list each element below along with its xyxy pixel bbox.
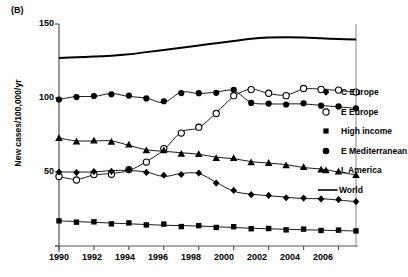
line-swatch-icon — [318, 184, 341, 196]
data-point — [126, 93, 132, 99]
data-point — [283, 227, 288, 232]
data-point — [196, 124, 202, 130]
data-point — [91, 93, 97, 99]
data-point — [300, 194, 307, 201]
data-point — [161, 98, 167, 104]
data-point — [143, 95, 149, 101]
data-point — [300, 163, 308, 170]
data-point — [161, 221, 166, 226]
data-point — [248, 191, 255, 198]
data-point — [318, 228, 323, 233]
data-point — [213, 90, 219, 96]
data-point — [125, 141, 133, 148]
data-point — [300, 85, 306, 91]
data-point — [231, 87, 237, 93]
data-point — [266, 90, 272, 96]
data-point — [178, 90, 184, 96]
data-point — [248, 100, 254, 106]
legend-label: E Mediterranean — [341, 146, 407, 156]
data-point — [178, 130, 184, 136]
legend-item-e-europe[interactable]: E Europe — [318, 106, 408, 126]
filled-triangle-icon — [318, 164, 334, 176]
axis-lines — [55, 24, 358, 252]
data-point — [109, 221, 114, 226]
data-point — [196, 90, 202, 96]
data-point — [108, 91, 114, 97]
figure-panel-b: (B) New cases/100,000/yr 150 100 50 1990… — [0, 0, 408, 277]
data-point — [161, 172, 168, 179]
data-point — [195, 169, 202, 176]
legend: C Europe E Europe High income E Mediterr… — [318, 86, 408, 203]
data-point — [283, 194, 290, 201]
data-point — [73, 94, 79, 100]
data-point — [301, 226, 306, 231]
series-world — [59, 37, 356, 58]
data-point — [177, 150, 185, 157]
data-point — [266, 101, 272, 107]
data-point — [144, 222, 149, 227]
data-point — [248, 226, 253, 231]
data-point — [336, 227, 341, 232]
legend-label: World — [339, 185, 363, 195]
data-point — [283, 101, 289, 107]
open-circle-icon — [318, 106, 334, 118]
data-point — [179, 224, 184, 229]
data-point — [230, 187, 237, 194]
legend-item-world[interactable]: World — [318, 184, 408, 204]
data-point — [213, 179, 220, 186]
legend-label: L America — [341, 165, 382, 175]
legend-item-c-europe[interactable]: C Europe — [318, 86, 408, 106]
filled-square-icon — [318, 125, 334, 137]
data-point — [126, 220, 131, 225]
data-point — [55, 134, 63, 141]
data-series-layer — [55, 37, 360, 233]
data-point — [56, 96, 62, 102]
legend-item-high-income[interactable]: High income — [318, 125, 408, 145]
legend-label: C Europe — [341, 87, 379, 97]
legend-item-l-america[interactable]: L America — [318, 164, 408, 184]
legend-label: E Europe — [341, 107, 378, 117]
data-point — [214, 225, 219, 230]
legend-item-e-mediterranean[interactable]: E Mediterranean — [318, 145, 408, 165]
series-c-europe — [56, 166, 360, 205]
data-point — [73, 177, 79, 183]
data-point — [178, 171, 185, 178]
data-point — [213, 110, 219, 116]
data-point — [143, 169, 150, 176]
data-point — [230, 154, 238, 161]
data-point — [56, 218, 61, 223]
series-high-income — [56, 218, 358, 233]
data-point — [91, 219, 96, 224]
data-point — [353, 228, 358, 233]
data-point — [143, 159, 149, 165]
data-point — [248, 87, 254, 93]
filled-circle-icon — [318, 145, 334, 157]
data-point — [266, 226, 271, 231]
data-point — [196, 223, 201, 228]
data-point — [74, 219, 79, 224]
data-point — [231, 224, 236, 229]
data-point — [300, 100, 306, 106]
data-point — [73, 169, 80, 176]
series-e-mediterranean — [56, 87, 359, 112]
data-point — [231, 93, 237, 99]
data-point — [90, 137, 98, 144]
data-point — [283, 93, 289, 99]
legend-label: High income — [341, 126, 392, 136]
filled-diamond-icon — [318, 86, 334, 98]
data-point — [265, 192, 272, 199]
